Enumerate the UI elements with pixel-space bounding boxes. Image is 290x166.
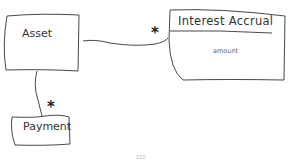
multiplicity-interest-accrual: * <box>151 24 159 42</box>
attribute-amount: amount <box>213 47 238 55</box>
multiplicity-payment: * <box>47 98 55 116</box>
association-asset-payment <box>35 71 42 116</box>
asset-box <box>4 14 79 71</box>
class-payment-name: Payment <box>23 120 71 133</box>
figure-caption: ΞΞΞ <box>136 154 145 160</box>
class-asset-name: Asset <box>22 27 52 40</box>
interest-accrual-divider <box>170 31 272 33</box>
class-interest-accrual-name: Interest Accrual <box>178 14 273 28</box>
